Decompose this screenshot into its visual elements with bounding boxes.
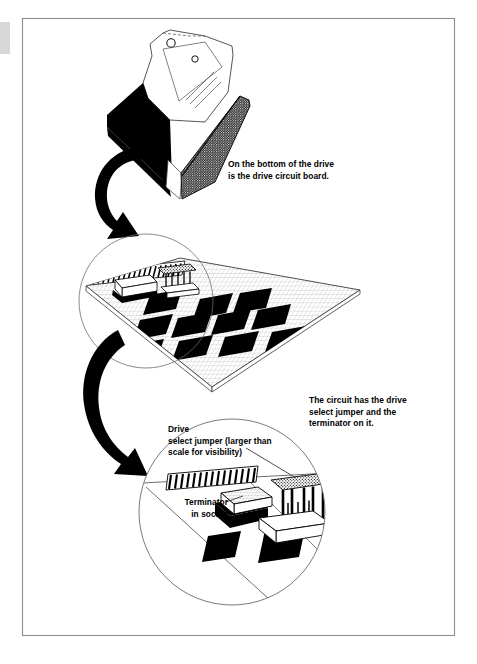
caption-drive-select-jumper: Drive select jumper (larger than scale f…: [168, 424, 272, 459]
illustration-page: On the bottom of the drive is the drive …: [0, 0, 477, 664]
curved-arrow-lower: [83, 330, 148, 476]
circuit-board: [79, 234, 360, 392]
caption-terminator-in-socket: Terminator in socket: [160, 497, 228, 520]
caption-bottom-of-drive: On the bottom of the drive is the drive …: [228, 159, 334, 182]
caption-circuit-has: The circuit has the drive select jumper …: [309, 395, 407, 430]
drive-mounting-hole: [192, 56, 198, 62]
drive-mounting-hole: [167, 39, 175, 47]
drive-circuit-board-figure: [0, 0, 477, 664]
